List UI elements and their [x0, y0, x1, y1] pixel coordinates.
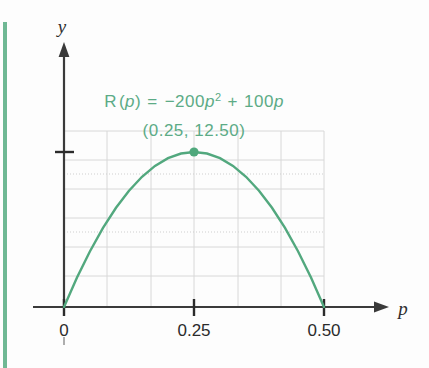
vertex-point-marker — [189, 147, 198, 156]
equation-exponent: 2 — [215, 91, 222, 103]
x-axis-label: p — [396, 298, 408, 319]
figure-page: R(p)=−200p2+100p (0.25, 12.50) y p 0 0.2… — [0, 0, 429, 368]
parabola-chart-svg: R(p)=−200p2+100p (0.25, 12.50) y p 0 0.2… — [0, 0, 429, 368]
equation-plus: + — [228, 92, 238, 111]
x-tick-label-0: 0 — [59, 321, 68, 340]
chart-ticks — [55, 152, 324, 316]
x-axis-arrowhead — [374, 302, 389, 313]
x-tick-label-050: 0.50 — [307, 321, 340, 340]
equation-coeff-1: 200 — [175, 92, 205, 111]
equation-coeff-2: 100 — [244, 92, 274, 111]
equation-close-paren: ) — [135, 92, 141, 111]
equation-var-1: p — [124, 92, 135, 111]
vertex-point-label: (0.25, 12.50) — [143, 121, 246, 140]
graph-figure: R(p)=−200p2+100p (0.25, 12.50) y p 0 0.2… — [0, 0, 429, 368]
equation-var-3: p — [273, 92, 284, 111]
y-axis-label: y — [56, 16, 67, 37]
equation-var-2: p — [204, 92, 215, 111]
y-axis-arrowhead — [59, 42, 70, 57]
equation-minus: − — [165, 92, 175, 111]
equation-text: R — [104, 92, 117, 111]
equation-equals: = — [147, 92, 157, 111]
equation-annotation: R(p)=−200p2+100p — [104, 91, 284, 111]
chart-gridlines — [64, 131, 324, 307]
x-tick-label-025: 0.25 — [177, 321, 210, 340]
